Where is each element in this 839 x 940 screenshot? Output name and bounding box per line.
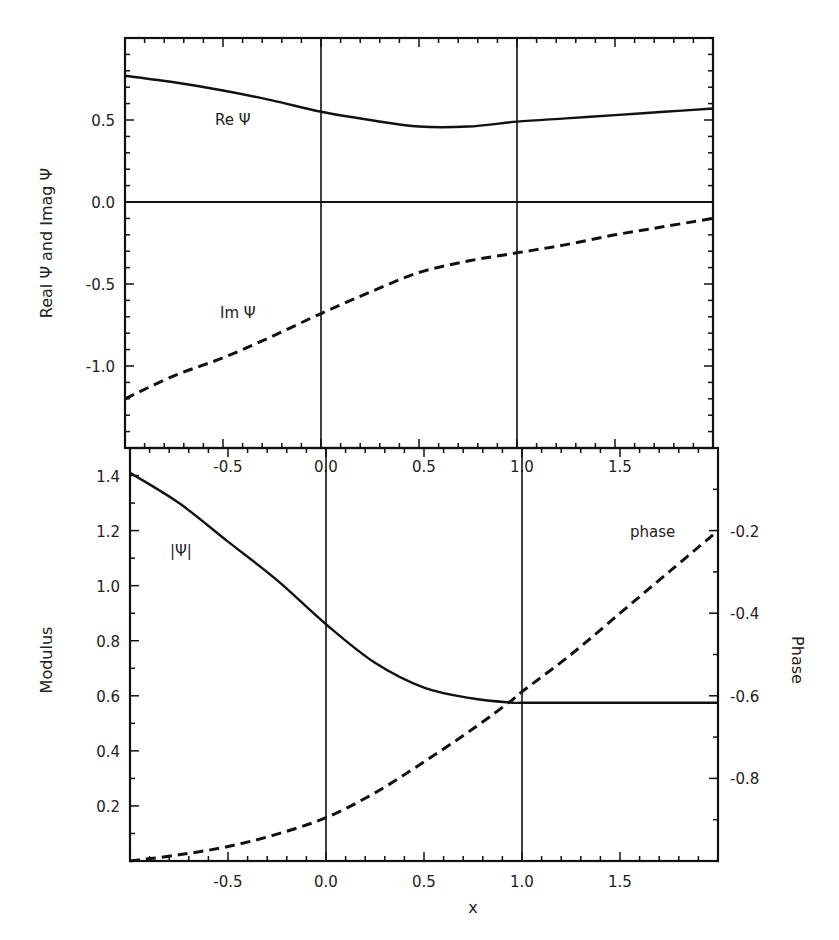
x-tick-label-inner: -0.5 — [213, 458, 242, 476]
re-psi-label: Re Ψ — [215, 111, 251, 129]
modulus-label: |Ψ| — [170, 542, 192, 560]
y-tick-label: -1.0 — [86, 358, 115, 376]
x-tick-label-inner: 0.5 — [412, 458, 436, 476]
y-tick-label: 1.4 — [96, 468, 120, 486]
y-tick-label: 0.4 — [96, 743, 120, 761]
y-tick-label: -0.5 — [86, 276, 115, 294]
y-tick-label: 0.6 — [96, 688, 120, 706]
y-tick-label: 1.0 — [96, 578, 120, 596]
series-re-line — [125, 76, 713, 128]
x-axis-title: x — [468, 898, 477, 917]
x-tick-label: 1.5 — [608, 873, 632, 891]
y-tick-label: 0.2 — [96, 798, 120, 816]
plot-frame — [125, 38, 713, 448]
y-tick-label: 1.2 — [96, 523, 120, 541]
series--line — [130, 473, 718, 703]
phase-label: phase — [630, 523, 675, 541]
top-panel: 0.50.0-0.5-1.0 — [86, 38, 713, 448]
y-tick-label: 0.0 — [91, 194, 115, 212]
x-tick-label: 0.0 — [314, 873, 338, 891]
plot-frame — [130, 448, 718, 861]
bottom-panel: -0.2-0.4-0.6-0.80.20.40.60.81.01.21.4-0.… — [96, 448, 759, 891]
phase-axis-title: Phase — [788, 636, 807, 684]
y-right-tick-label: -0.6 — [730, 688, 759, 706]
y-tick-label: 0.8 — [96, 633, 120, 651]
y-right-tick-label: -0.2 — [730, 523, 759, 541]
y-tick-label: 0.5 — [91, 112, 115, 130]
im-psi-label: Im Ψ — [220, 304, 256, 322]
x-tick-label-inner: 1.5 — [608, 458, 632, 476]
x-tick-label: 0.5 — [412, 873, 436, 891]
x-tick-label: -0.5 — [213, 873, 242, 891]
series-im-line — [125, 218, 713, 398]
y-right-tick-label: -0.4 — [730, 605, 759, 623]
series-phase-line — [130, 531, 718, 861]
top-y-axis-title: Real Ψ and Imag Ψ — [37, 168, 56, 318]
x-tick-label: 1.0 — [510, 873, 534, 891]
figure: 0.50.0-0.5-1.0 -0.2-0.4-0.6-0.80.20.40.6… — [0, 0, 839, 940]
y-right-tick-label: -0.8 — [730, 770, 759, 788]
modulus-axis-title: Modulus — [37, 627, 56, 694]
